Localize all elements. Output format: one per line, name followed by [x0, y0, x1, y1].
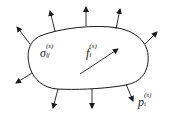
stress-subscript: ij — [46, 52, 50, 59]
traction-subscript: i — [144, 101, 146, 108]
traction-arrow-1 — [17, 27, 30, 44]
body-force-subscript: i — [89, 52, 91, 59]
body-force-superscript: (s) — [89, 43, 96, 50]
traction-arrow-6 — [16, 73, 32, 83]
stress-superscript: (s) — [46, 43, 53, 50]
traction-arrow-2 — [50, 11, 55, 31]
traction-superscript: (s) — [144, 92, 151, 99]
traction-label: p(s)i — [138, 93, 154, 109]
traction-arrow-9 — [126, 84, 133, 101]
stress-label: σ(s)ij — [40, 44, 56, 60]
traction-arrow-4 — [116, 9, 120, 29]
traction-arrow-5 — [145, 32, 157, 44]
body-force-label: f(s)i — [86, 44, 99, 60]
traction-arrow-7 — [53, 89, 58, 108]
